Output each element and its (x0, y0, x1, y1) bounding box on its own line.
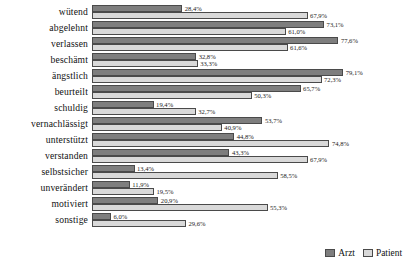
bar-value-label: 40,9% (222, 124, 242, 131)
bar-value-label: 19,4% (154, 101, 174, 108)
bar-value-label: 32,7% (196, 108, 216, 115)
bar-group: 65,7%50,3% (92, 84, 414, 100)
chart-row: vernachlässigt53,7%40,9% (0, 116, 414, 132)
bar-patient (92, 108, 196, 115)
category-label: ängstlich (0, 68, 88, 84)
bar-patient (92, 76, 322, 83)
bar-value-label: 55,3% (268, 204, 288, 211)
bar-value-label: 33,3% (198, 60, 218, 67)
chart-row: sonstige6,0%29,6% (0, 212, 414, 228)
bar-group: 20,9%55,3% (92, 196, 414, 212)
chart-row: verstanden43,3%67,9% (0, 148, 414, 164)
category-label: selbstsicher (0, 164, 88, 180)
chart-row: motiviert20,9%55,3% (0, 196, 414, 212)
bar-patient (92, 204, 268, 211)
bar-patient (92, 188, 154, 195)
bar-arzt (92, 21, 324, 28)
bar-value-label: 32,8% (196, 53, 216, 60)
bar-group: 6,0%29,6% (92, 212, 414, 228)
category-label: vernachlässigt (0, 116, 88, 132)
category-label: schuldig (0, 100, 88, 116)
bar-group: 13,4%58,5% (92, 164, 414, 180)
bar-value-label: 20,9% (158, 197, 178, 204)
legend-item-patient: Patient (363, 248, 402, 258)
chart-row: schuldig19,4%32,7% (0, 100, 414, 116)
bar-value-label: 74,8% (329, 140, 349, 147)
bar-value-label: 72,3% (322, 76, 342, 83)
legend-label: Arzt (338, 248, 355, 258)
bar-value-label: 67,9% (308, 12, 328, 19)
bar-arzt (92, 117, 262, 124)
bar-patient (92, 92, 252, 99)
bar-patient (92, 28, 286, 35)
category-label: beschämt (0, 52, 88, 68)
bar-value-label: 67,9% (308, 156, 328, 163)
bar-arzt (92, 5, 182, 12)
bar-value-label: 13,4% (135, 165, 155, 172)
bar-patient (92, 44, 288, 51)
chart-row: beurteilt65,7%50,3% (0, 84, 414, 100)
bar-group: 32,8%33,3% (92, 52, 414, 68)
bar-value-label: 61,0% (286, 28, 306, 35)
bar-patient (92, 12, 308, 19)
bar-patient (92, 220, 186, 227)
bar-value-label: 19,5% (154, 188, 174, 195)
legend-swatch-icon (363, 249, 373, 257)
bar-arzt (92, 133, 234, 140)
bar-value-label: 77,6% (338, 37, 358, 44)
bar-value-label: 79,1% (343, 69, 363, 76)
category-label: motiviert (0, 196, 88, 212)
chart-row: beschämt32,8%33,3% (0, 52, 414, 68)
chart-row: selbstsicher13,4%58,5% (0, 164, 414, 180)
bar-group: 77,6%61,6% (92, 36, 414, 52)
category-label: unverändert (0, 180, 88, 196)
bar-arzt (92, 197, 158, 204)
bar-arzt (92, 37, 338, 44)
bar-patient (92, 156, 308, 163)
category-label: abgelehnt (0, 20, 88, 36)
category-label: verlassen (0, 36, 88, 52)
bar-value-label: 43,3% (229, 149, 249, 156)
bar-patient (92, 60, 198, 67)
category-label: unterstützt (0, 132, 88, 148)
chart-row: wütend28,4%67,9% (0, 4, 414, 20)
bar-arzt (92, 213, 111, 220)
bar-value-label: 73,1% (324, 21, 344, 28)
bar-patient (92, 140, 329, 147)
category-label: sonstige (0, 212, 88, 228)
bar-group: 11,9%19,5% (92, 180, 414, 196)
bar-arzt (92, 69, 343, 76)
bar-value-label: 29,6% (186, 220, 206, 227)
bar-value-label: 58,5% (278, 172, 298, 179)
chart-row: unverändert11,9%19,5% (0, 180, 414, 196)
bar-value-label: 44,8% (234, 133, 254, 140)
grouped-bar-chart: wütend28,4%67,9%abgelehnt73,1%61,0%verla… (0, 0, 414, 269)
bar-group: 79,1%72,3% (92, 68, 414, 84)
bar-arzt (92, 165, 135, 172)
bar-group: 44,8%74,8% (92, 132, 414, 148)
bar-arzt (92, 101, 154, 108)
bar-arzt (92, 85, 301, 92)
bar-group: 43,3%67,9% (92, 148, 414, 164)
legend-swatch-icon (325, 249, 335, 257)
bar-patient (92, 124, 222, 131)
chart-legend: ArztPatient (0, 245, 414, 261)
legend-item-arzt: Arzt (325, 248, 355, 258)
bar-group: 53,7%40,9% (92, 116, 414, 132)
bar-arzt (92, 149, 229, 156)
category-label: wütend (0, 4, 88, 20)
bar-value-label: 65,7% (301, 85, 321, 92)
bar-arzt (92, 181, 130, 188)
bar-value-label: 53,7% (262, 117, 282, 124)
bar-arzt (92, 53, 196, 60)
category-label: verstanden (0, 148, 88, 164)
bar-group: 19,4%32,7% (92, 100, 414, 116)
bar-patient (92, 172, 278, 179)
chart-row: abgelehnt73,1%61,0% (0, 20, 414, 36)
chart-row: unterstützt44,8%74,8% (0, 132, 414, 148)
bar-group: 28,4%67,9% (92, 4, 414, 20)
bar-group: 73,1%61,0% (92, 20, 414, 36)
legend-label: Patient (376, 248, 402, 258)
bar-value-label: 61,6% (288, 44, 308, 51)
chart-row: verlassen77,6%61,6% (0, 36, 414, 52)
